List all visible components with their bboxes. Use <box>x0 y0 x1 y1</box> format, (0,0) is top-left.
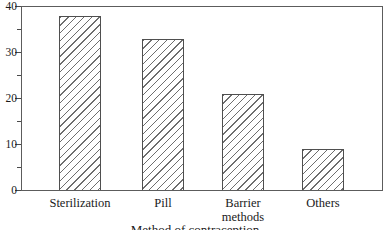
bar-pill <box>142 39 184 190</box>
category-label-sterilization: Sterilization <box>40 196 120 210</box>
y-minor-tick-5 <box>17 167 21 168</box>
bar-chart-figure: 010203040 SterilizationPillBarrier metho… <box>0 0 390 230</box>
y-tick-label-20: 20 <box>0 93 17 104</box>
plot-area <box>21 6 383 191</box>
y-minor-tick-15 <box>17 121 21 122</box>
y-tick-label-10: 10 <box>0 139 17 150</box>
x-axis-title: Method of contraception <box>0 222 390 230</box>
category-label-barrier-methods: Barrier methods <box>203 196 283 224</box>
y-minor-tick-35 <box>17 29 21 30</box>
bar-others <box>302 149 344 190</box>
y-tick-label-0: 0 <box>0 185 17 196</box>
y-tick-label-30: 30 <box>0 47 17 58</box>
bar-barrier-methods <box>222 94 264 190</box>
y-tick-label-40: 40 <box>0 1 17 12</box>
y-minor-tick-25 <box>17 75 21 76</box>
category-label-pill: Pill <box>123 196 203 210</box>
category-label-others: Others <box>283 196 363 210</box>
bar-sterilization <box>59 16 101 190</box>
